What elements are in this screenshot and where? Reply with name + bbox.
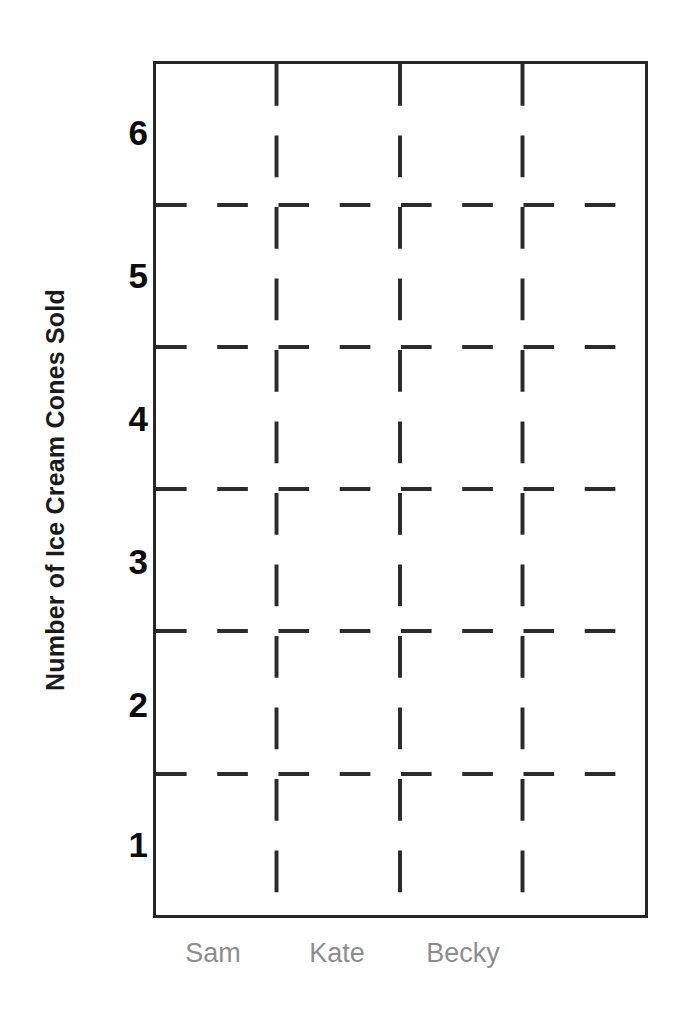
y-axis-title: Number of Ice Cream Cones Sold (41, 140, 70, 840)
y-tick-label-3: 3 (108, 544, 148, 579)
y-tick-label-6: 6 (108, 115, 148, 150)
y-tick-label-2: 2 (108, 687, 148, 722)
x-tick-label-kate: Kate (267, 940, 407, 967)
x-tick-label-becky: Becky (393, 940, 533, 967)
y-tick-label-5: 5 (108, 258, 148, 293)
bar-graph-figure: Number of Ice Cream Cones Sold 6 5 4 3 2… (0, 0, 681, 1024)
gridlines (156, 64, 645, 915)
x-tick-label-sam: Sam (143, 940, 283, 967)
y-tick-label-1: 1 (108, 827, 148, 862)
plot-area (153, 61, 648, 918)
y-tick-label-4: 4 (108, 401, 148, 436)
